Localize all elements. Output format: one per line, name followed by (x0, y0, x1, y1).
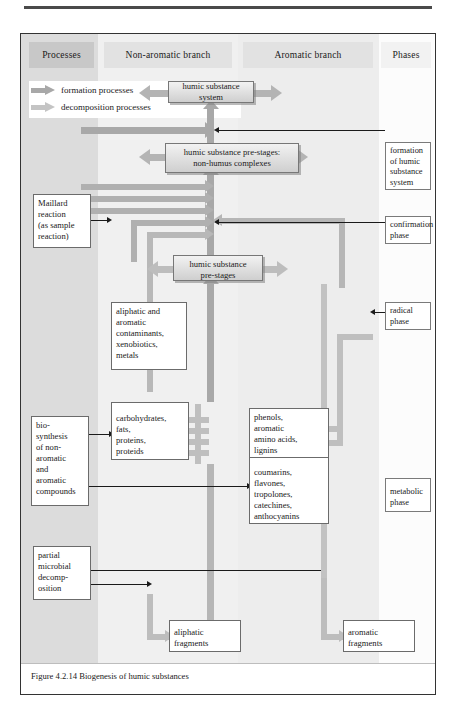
leader-line-biosynthesis-lower (89, 486, 249, 487)
figure-page: Processes Non-aromatic branch Aromatic b… (0, 0, 456, 709)
phase-label-line2: of humic (390, 157, 426, 168)
node-label-line2: microbial (38, 561, 86, 572)
phase-label-line1: radical (390, 306, 426, 317)
leader-line-biosynthesis-upper (89, 434, 111, 435)
arrow-head-feed-b (205, 192, 214, 204)
phase-box-confirmation-phase[interactable]: confirmation phase (385, 216, 431, 244)
node-label-line3: of non- (36, 442, 84, 453)
node-label-line1: Maillard (38, 198, 86, 209)
phase-box-radical-phase[interactable]: radical phase (385, 302, 431, 330)
column-band-phases (379, 34, 434, 663)
leader-tick-confirmation (214, 219, 219, 225)
arrow-head-hss-right (271, 85, 282, 101)
node-label-line2: reaction (38, 209, 86, 220)
figure-caption: Figure 4.2.14 Biogenesis of humic substa… (31, 671, 189, 681)
phase-label-line2: phase (390, 498, 426, 509)
node-label-line2: pre-stages (178, 270, 258, 281)
phase-label-line2: phase (390, 317, 426, 328)
node-label-line3: proteins, (116, 435, 184, 446)
node-label-line2: aromatic (116, 317, 182, 328)
arrow-head-second-riser (205, 228, 214, 240)
node-label-line3: contaminants, (116, 328, 182, 339)
node-label-line2: fragments (174, 638, 236, 649)
node-label-line3: amino acids, (254, 434, 324, 445)
node-label-line7: compounds (36, 486, 84, 497)
arrow-head-hss-left (139, 85, 150, 101)
node-label-line1: phenols, (254, 412, 324, 423)
node-aromatic-fragments[interactable]: aromatic fragments (343, 620, 415, 652)
node-humic-substance-pre-stages[interactable]: humic substance pre-stages (173, 255, 263, 281)
node-coumarins[interactable]: coumarins, flavones, tropolones, catechi… (249, 458, 329, 524)
leader-tick-microbial-lower (147, 581, 152, 587)
column-band-aromatic (238, 34, 379, 663)
node-label-line2: flavones, (254, 478, 324, 489)
leader-line-formation (217, 130, 385, 131)
phase-box-formation-of-humic-substance-system[interactable]: formation of humic substance system (385, 142, 431, 190)
node-label-line1: bio- (36, 420, 84, 431)
node-label-line1: carbohydrates, (116, 413, 184, 424)
node-phenols[interactable]: phenols, aromatic amino acids, lignins (249, 408, 329, 458)
node-label-line1: partial (38, 550, 86, 561)
node-label-line4: osition (38, 583, 86, 594)
leader-line-microbial-lower (91, 584, 149, 585)
node-label-line3: (as sample (38, 220, 86, 231)
phase-label-line1: metabolic (390, 487, 426, 498)
node-label-line1: aromatic (348, 627, 410, 638)
node-label-line1: humic substance (178, 259, 258, 270)
phase-box-metabolic-phase[interactable]: metabolic phase (385, 478, 431, 512)
node-label-line1: humic substance pre-stages: (170, 147, 294, 158)
node-label-line1: coumarins, (254, 467, 324, 478)
node-label-line1: aliphatic (174, 627, 236, 638)
node-label-line4: xenobiotics, (116, 339, 182, 350)
legend-label-decomposition: decomposition processes (61, 102, 151, 112)
column-header-aromatic: Aromatic branch (243, 42, 373, 68)
arrow-head-feed-a (205, 180, 214, 192)
arrow-head-prestages-left (139, 149, 150, 165)
leader-tick-formation (214, 127, 219, 133)
node-biosynthesis[interactable]: bio- synthesis of non- aromatic and arom… (31, 416, 89, 506)
arrow-head-contaminants-up (205, 216, 214, 228)
figure-frame: Processes Non-aromatic branch Aromatic b… (20, 33, 436, 695)
formation-arrow-icon (31, 85, 55, 96)
node-humic-substance-pre-stages-non-humus[interactable]: humic substance pre-stages: non-humus co… (165, 143, 299, 173)
phase-label-line4: system (390, 178, 426, 189)
leader-line-microbial-upper (91, 570, 321, 571)
node-label-line2: aromatic (254, 423, 324, 434)
leader-line-confirmation (217, 222, 385, 223)
column-header-processes: Processes (29, 42, 94, 68)
node-label-line5: anthocyanins (254, 511, 324, 522)
node-label: humic substance system (173, 81, 249, 103)
page-header-rule (24, 6, 432, 9)
node-label-line2: synthesis (36, 431, 84, 442)
node-label-line5: metals (116, 350, 182, 361)
node-label-line4: proteids (116, 446, 184, 457)
node-label-line2: fats, (116, 424, 184, 435)
phase-label-line1: formation (390, 146, 426, 157)
node-humic-substance-system[interactable]: humic substance system (168, 81, 254, 103)
node-carbohydrates[interactable]: carbohydrates, fats, proteins, proteids (111, 402, 189, 460)
legend-item-decomposition: decomposition processes (31, 100, 151, 114)
legend-item-formation: formation processes (31, 83, 133, 97)
leader-tick-radical (370, 309, 375, 315)
phase-label-line1: confirmation (390, 220, 426, 231)
arrow-head-small-prestages-right (277, 261, 288, 277)
node-label-line3: decomp- (38, 572, 86, 583)
node-aliphatic-fragments[interactable]: aliphatic fragments (169, 620, 241, 652)
legend-label-formation: formation processes (61, 85, 133, 95)
node-label-line2: fragments (348, 638, 410, 649)
node-label-line3: tropolones, (254, 489, 324, 500)
node-label-line5: and (36, 464, 84, 475)
node-label-line1: aliphatic and (116, 306, 182, 317)
node-maillard-reaction[interactable]: Maillard reaction (as sample reaction) (33, 194, 91, 248)
phase-label-line3: substance (390, 167, 426, 178)
decomposition-arrow-icon (31, 102, 55, 113)
node-label-line4: lignins (254, 445, 324, 456)
column-header-non-aromatic: Non-aromatic branch (104, 42, 232, 68)
node-label-line4: aromatic (36, 453, 84, 464)
node-label-line2: non-humus complexes (170, 158, 294, 169)
node-label-line6: aromatic (36, 475, 84, 486)
node-partial-microbial-decomposition[interactable]: partial microbial decomp- osition (33, 546, 91, 600)
node-contaminants[interactable]: aliphatic and aromatic contaminants, xen… (111, 302, 187, 370)
column-header-phases: Phases (381, 42, 431, 68)
node-label-line4: reaction) (38, 231, 86, 242)
